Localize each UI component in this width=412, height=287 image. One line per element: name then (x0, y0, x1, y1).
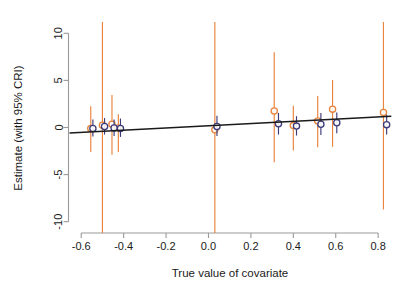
data-point-marker (271, 108, 277, 114)
y-tick-label: 10 (53, 27, 65, 39)
data-point-marker (334, 120, 340, 126)
x-tick-label: 0.4 (286, 240, 301, 252)
x-tick-label: 0.6 (328, 240, 343, 252)
plot-canvas: -10-50510-0.6-0.4-0.20.00.20.40.60.8 Est… (0, 0, 412, 287)
data-point-marker (318, 121, 324, 127)
scatter-plot-figure: -10-50510-0.6-0.4-0.20.00.20.40.60.8 Est… (0, 0, 412, 287)
y-tick-label: 5 (53, 77, 65, 83)
x-tick-label: -0.4 (114, 240, 133, 252)
y-tick-label: -5 (53, 170, 65, 180)
data-point-marker (380, 109, 386, 115)
x-tick-label: -0.6 (72, 240, 91, 252)
y-axis-title: Estimate (with 95% CRI) (12, 65, 24, 190)
data-point-marker (293, 123, 299, 129)
data-point-marker (329, 106, 335, 112)
data-point-marker (90, 125, 96, 131)
x-tick-label: -0.2 (157, 240, 176, 252)
y-tick-label: 0 (53, 124, 65, 130)
data-point-marker (101, 123, 107, 129)
x-axis-title: True value of covariate (172, 267, 289, 279)
x-tick-label: 0.0 (201, 240, 216, 252)
x-tick-label: 0.2 (243, 240, 258, 252)
x-tick-label: 0.8 (371, 240, 386, 252)
data-point-marker (384, 122, 390, 128)
y-tick-label: -10 (53, 214, 65, 230)
